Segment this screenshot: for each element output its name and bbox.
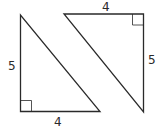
right-triangle-shape [64, 14, 144, 112]
triangles-diagram [0, 0, 160, 134]
left-triangle [21, 15, 101, 112]
right-triangle [64, 14, 144, 112]
right-vertical-leg-label: 5 [148, 54, 156, 66]
right-horizontal-leg-label: 4 [102, 1, 110, 13]
left-vertical-leg-label: 5 [8, 60, 16, 72]
right-right-angle-marker [133, 14, 144, 25]
left-triangle-shape [21, 15, 101, 112]
left-right-angle-marker [21, 101, 32, 112]
left-horizontal-leg-label: 4 [54, 116, 62, 128]
